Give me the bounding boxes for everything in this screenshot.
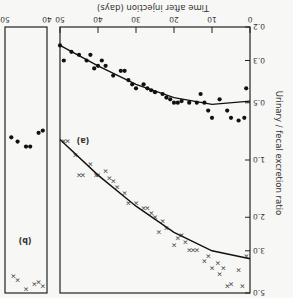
panel-b-annotation: (b): [18, 236, 31, 245]
svg-text:20: 20: [169, 15, 179, 24]
svg-text:×: ×: [239, 282, 245, 290]
svg-text:×: ×: [156, 228, 162, 236]
svg-text:10: 10: [207, 15, 217, 24]
svg-text:40: 40: [93, 15, 103, 24]
svg-text:2.0: 2.0: [253, 212, 265, 221]
x-axis-label: Time after injection (days): [97, 3, 210, 13]
chart-svg: 0.20.30.51.02.03.05.0010203040504050 ×××…: [0, 0, 293, 298]
svg-text:0.5: 0.5: [253, 98, 265, 107]
svg-text:3.0: 3.0: [253, 246, 265, 255]
svg-text:40: 40: [42, 15, 52, 24]
svg-text:×: ×: [171, 241, 177, 249]
svg-text:0: 0: [247, 15, 252, 24]
svg-text:×: ×: [217, 270, 223, 278]
svg-text:×: ×: [10, 272, 16, 280]
svg-text:×: ×: [76, 171, 82, 179]
axis-tick-labels: 0.20.30.51.02.03.05.0010203040504050: [0, 15, 265, 297]
svg-text:×: ×: [224, 282, 230, 290]
svg-text:×: ×: [201, 257, 207, 265]
svg-text:1.0: 1.0: [253, 155, 265, 164]
svg-text:50: 50: [0, 15, 10, 24]
y-axis-label: Urinary / fecal excretion ratio: [274, 91, 284, 215]
svg-text:×: ×: [103, 167, 109, 175]
svg-text:×: ×: [31, 280, 37, 288]
plot-group: 0.20.30.51.02.03.05.0010203040504050 ×××…: [0, 3, 284, 297]
svg-text:×: ×: [209, 264, 215, 272]
svg-text:0.2: 0.2: [253, 22, 265, 31]
svg-text:×: ×: [236, 266, 242, 274]
svg-text:0.3: 0.3: [253, 56, 265, 65]
svg-text:×: ×: [23, 285, 29, 293]
panel-b-frame: [5, 27, 47, 293]
data-series: ××××××××××××××××××××××××××××××××××××××××…: [9, 43, 250, 293]
svg-text:5.0: 5.0: [253, 288, 265, 297]
svg-text:50: 50: [55, 15, 65, 24]
panel-a-annotation: (a): [77, 136, 90, 145]
svg-text:×: ×: [186, 246, 192, 254]
svg-text:30: 30: [131, 15, 141, 24]
chart-figure: 0.20.30.51.02.03.05.0010203040504050 ×××…: [0, 0, 293, 298]
